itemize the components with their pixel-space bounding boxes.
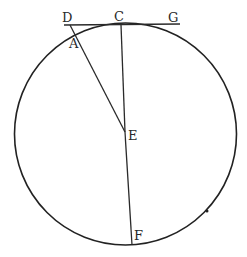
tangent-line-dg [64, 24, 180, 25]
label-c: C [114, 9, 124, 24]
label-d: D [62, 10, 72, 25]
diagram-canvas: D C G A E F [0, 0, 247, 257]
label-f: F [134, 228, 143, 243]
radius-ef [125, 132, 132, 245]
ink-mark [206, 210, 209, 213]
geometry-figure: D C G A E F [0, 0, 247, 257]
label-g: G [168, 10, 178, 25]
label-e: E [128, 128, 138, 143]
label-a: A [68, 36, 79, 51]
radius-ce [121, 25, 125, 132]
